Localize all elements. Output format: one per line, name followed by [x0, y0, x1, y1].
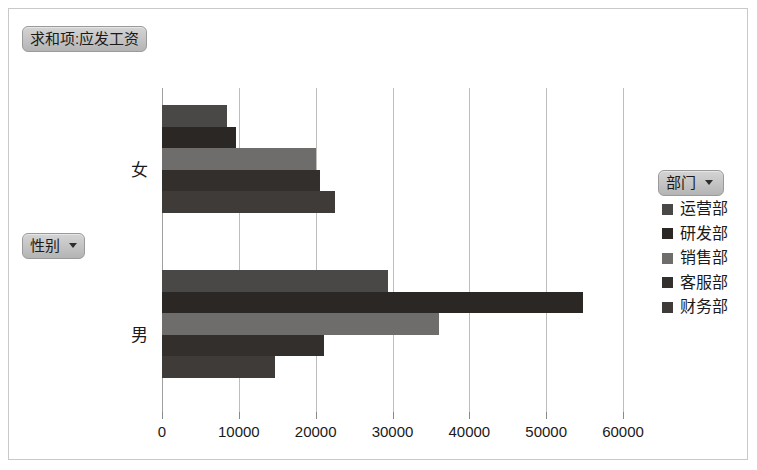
bar-销售部[interactable] — [162, 148, 316, 170]
bar-row — [162, 335, 623, 357]
bar-研发部[interactable] — [162, 127, 236, 149]
axis-tick-label: 50000 — [525, 423, 567, 440]
chevron-down-icon[interactable] — [705, 180, 713, 185]
bar-销售部[interactable] — [162, 313, 439, 335]
bar-客服部[interactable] — [162, 170, 320, 192]
legend-item-label: 运营部 — [680, 200, 728, 218]
axis-tick — [469, 412, 470, 419]
axis-tick-label: 10000 — [218, 423, 260, 440]
axis-tick — [162, 412, 163, 419]
legend-item-label: 销售部 — [680, 249, 728, 267]
legend-swatch-icon — [662, 204, 673, 215]
legend-field-label: 部门 — [666, 173, 696, 192]
bar-group-male — [162, 270, 623, 378]
bar-group-female — [162, 105, 623, 213]
bar-运营部[interactable] — [162, 105, 227, 127]
bar-财务部[interactable] — [162, 356, 275, 378]
category-label-male: 男 — [131, 321, 148, 346]
legend-swatch-icon — [662, 277, 673, 288]
legend-item-财务部[interactable]: 财务部 — [662, 298, 728, 316]
axis-tick — [316, 412, 317, 419]
value-axis: 0100002000030000400005000060000 — [162, 412, 623, 452]
legend-item-运营部[interactable]: 运营部 — [662, 200, 728, 218]
category-axis: 女 男 — [0, 88, 162, 412]
legend-item-label: 财务部 — [680, 298, 728, 316]
legend-item-销售部[interactable]: 销售部 — [662, 249, 728, 267]
legend-swatch-icon — [662, 253, 673, 264]
legend-item-label: 研发部 — [680, 225, 728, 243]
bar-row — [162, 148, 623, 170]
bar-row — [162, 191, 623, 213]
bar-row — [162, 356, 623, 378]
axis-tick — [546, 412, 547, 419]
bar-row — [162, 105, 623, 127]
bar-row — [162, 170, 623, 192]
legend-swatch-icon — [662, 228, 673, 239]
axis-tick — [393, 412, 394, 419]
axis-tick-label: 20000 — [295, 423, 337, 440]
bar-客服部[interactable] — [162, 335, 324, 357]
bar-row — [162, 292, 623, 314]
gridline — [623, 88, 624, 412]
pivot-chart: 求和项:应发工资 性别 部门 女 男 010000200003000040000… — [0, 0, 757, 470]
axis-tick — [623, 412, 624, 419]
axis-tick-label: 60000 — [602, 423, 644, 440]
legend-item-研发部[interactable]: 研发部 — [662, 225, 728, 243]
axis-tick-label: 0 — [158, 423, 166, 440]
axis-tick-label: 40000 — [448, 423, 490, 440]
axis-tick — [239, 412, 240, 419]
bar-row — [162, 270, 623, 292]
bar-运营部[interactable] — [162, 270, 388, 292]
bar-row — [162, 313, 623, 335]
legend-field-button[interactable]: 部门 — [658, 170, 724, 196]
legend-item-label: 客服部 — [680, 274, 728, 292]
value-field-label: 求和项:应发工资 — [30, 29, 139, 48]
category-label-female: 女 — [131, 156, 148, 181]
value-field-button[interactable]: 求和项:应发工资 — [22, 26, 147, 52]
bar-研发部[interactable] — [162, 292, 583, 314]
axis-tick-label: 30000 — [372, 423, 414, 440]
legend-swatch-icon — [662, 302, 673, 313]
plot-area — [162, 88, 623, 412]
bar-row — [162, 127, 623, 149]
chart-legend: 运营部研发部销售部客服部财务部 — [662, 200, 728, 316]
bar-财务部[interactable] — [162, 191, 335, 213]
legend-item-客服部[interactable]: 客服部 — [662, 274, 728, 292]
